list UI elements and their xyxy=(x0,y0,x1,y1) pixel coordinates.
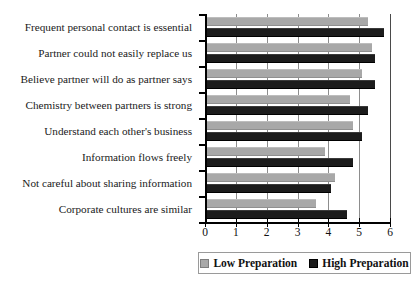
legend-item-low-preparation: Low Preparation xyxy=(200,257,297,269)
category-label: Chemistry between partners is strong xyxy=(0,92,198,118)
bar-low-preparation xyxy=(205,17,368,26)
y-tick xyxy=(199,118,206,120)
bar-group xyxy=(205,66,390,92)
bar-low-preparation xyxy=(205,199,316,208)
bar-group xyxy=(205,144,390,170)
x-tick-label: 4 xyxy=(318,226,338,238)
y-tick xyxy=(199,40,206,42)
bar-high-preparation xyxy=(205,106,368,115)
category-label: Information flows freely xyxy=(0,144,198,170)
bar-chart: Frequent personal contact is essential P… xyxy=(0,0,414,285)
legend-swatch-icon xyxy=(309,259,318,268)
category-axis-labels: Frequent personal contact is essential P… xyxy=(0,14,198,222)
x-axis-tick-labels: 0123456 xyxy=(205,226,390,244)
bar-high-preparation xyxy=(205,54,375,63)
bar-high-preparation xyxy=(205,28,384,37)
bar-high-preparation xyxy=(205,80,375,89)
gridline xyxy=(390,14,391,222)
x-tick-label: 3 xyxy=(288,226,308,238)
bar-high-preparation xyxy=(205,158,353,167)
bar-group xyxy=(205,118,390,144)
x-tick-label: 1 xyxy=(226,226,246,238)
category-label: Frequent personal contact is essential xyxy=(0,14,198,40)
bar-high-preparation xyxy=(205,184,331,193)
bar-group xyxy=(205,92,390,118)
category-label: Corporate cultures are similar xyxy=(0,196,198,222)
y-tick xyxy=(199,170,206,172)
bar-group xyxy=(205,40,390,66)
chart-legend: Low Preparation High Preparation xyxy=(198,252,411,274)
bar-low-preparation xyxy=(205,43,372,52)
category-label: Understand each other's business xyxy=(0,118,198,144)
bar-low-preparation xyxy=(205,173,335,182)
bar-group xyxy=(205,170,390,196)
x-tick-label: 2 xyxy=(257,226,277,238)
y-tick xyxy=(199,14,206,16)
category-label: Believe partner will do as partner says xyxy=(0,66,198,92)
bar-high-preparation xyxy=(205,132,362,141)
category-label: Partner could not easily replace us xyxy=(0,40,198,66)
legend-label: Low Preparation xyxy=(213,257,297,269)
legend-label: High Preparation xyxy=(322,257,408,269)
legend-swatch-icon xyxy=(200,259,209,268)
x-tick-label: 5 xyxy=(349,226,369,238)
legend-item-high-preparation: High Preparation xyxy=(309,257,408,269)
y-tick xyxy=(199,144,206,146)
y-tick xyxy=(199,66,206,68)
bar-low-preparation xyxy=(205,69,362,78)
bar-group xyxy=(205,14,390,40)
bar-low-preparation xyxy=(205,95,350,104)
bar-low-preparation xyxy=(205,147,325,156)
x-tick-label: 0 xyxy=(195,226,215,238)
x-tick-label: 6 xyxy=(380,226,400,238)
plot-area xyxy=(205,14,390,222)
y-tick xyxy=(199,92,206,94)
y-tick xyxy=(199,196,206,198)
category-label: Not careful about sharing information xyxy=(0,170,198,196)
bar-low-preparation xyxy=(205,121,353,130)
